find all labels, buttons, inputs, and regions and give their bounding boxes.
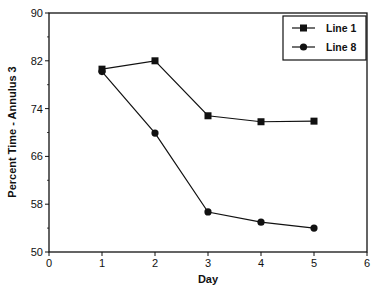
y-tick-label: 58 — [31, 198, 43, 210]
series-line — [102, 72, 314, 229]
y-tick-label: 90 — [31, 7, 43, 19]
legend-label: Line 8 — [326, 41, 357, 53]
x-axis-label: Day — [198, 273, 219, 285]
legend: Line 1Line 8 — [283, 16, 366, 60]
y-tick-label: 50 — [31, 246, 43, 258]
circle-marker — [151, 129, 158, 136]
x-tick-label: 5 — [311, 257, 317, 269]
circle-marker — [98, 68, 105, 75]
x-tick-label: 4 — [258, 257, 264, 269]
square-marker — [258, 118, 265, 125]
y-tick-label: 66 — [31, 150, 43, 162]
series-line-1 — [99, 57, 318, 125]
x-tick-label: 0 — [46, 257, 52, 269]
y-tick-label: 74 — [31, 103, 43, 115]
square-marker — [205, 112, 212, 119]
series-line-8 — [98, 68, 317, 232]
square-marker — [152, 57, 159, 64]
x-tick-label: 1 — [99, 257, 105, 269]
y-tick-label: 82 — [31, 55, 43, 67]
circle-marker — [257, 219, 264, 226]
y-axis-label: Percent Time - Annulus 3 — [6, 66, 18, 197]
circle-marker — [310, 225, 317, 232]
square-marker — [300, 25, 307, 32]
x-tick-label: 2 — [152, 257, 158, 269]
circle-marker — [300, 43, 307, 50]
series-group — [98, 57, 317, 231]
square-marker — [311, 118, 318, 125]
x-axis: 0123456 — [46, 252, 370, 269]
line-chart: 505866748290 0123456 Day Percent Time - … — [0, 0, 375, 292]
x-tick-label: 3 — [205, 257, 211, 269]
x-tick-label: 6 — [364, 257, 370, 269]
y-axis: 505866748290 — [31, 7, 49, 258]
circle-marker — [204, 208, 211, 215]
legend-label: Line 1 — [326, 22, 357, 34]
